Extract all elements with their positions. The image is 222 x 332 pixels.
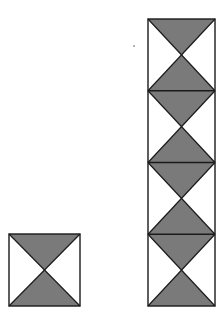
top-shaded-triangle (148, 234, 215, 270)
top-shaded-triangle (9, 234, 80, 270)
top-shaded-triangle (148, 19, 215, 55)
bottom-shaded-triangle (9, 270, 80, 306)
top-shaded-triangle (148, 163, 215, 199)
hourglass-tiles-graphic (8, 233, 81, 307)
stacked-hourglass-column (147, 18, 216, 307)
bottom-shaded-triangle (148, 127, 215, 163)
hourglass-tiles-graphic (147, 18, 216, 307)
scan-speck (133, 45, 135, 47)
bottom-shaded-triangle (148, 55, 215, 91)
bottom-shaded-triangle (148, 198, 215, 234)
top-shaded-triangle (148, 91, 215, 127)
single-hourglass-tile (8, 233, 81, 307)
bottom-shaded-triangle (148, 270, 215, 306)
